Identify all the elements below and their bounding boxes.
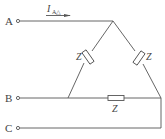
right-leg-top bbox=[113, 21, 135, 51]
terminal-c-label: C bbox=[5, 122, 12, 134]
terminal-c-node bbox=[16, 126, 19, 129]
terminal-b-node bbox=[16, 96, 19, 99]
current-subscript: A△ bbox=[52, 9, 61, 15]
impedance-left bbox=[82, 50, 94, 64]
current-arrow-head-icon bbox=[64, 14, 71, 17]
terminal-a-node bbox=[16, 19, 19, 22]
impedance-left-label: Z bbox=[76, 51, 82, 62]
left-leg-top bbox=[92, 21, 113, 51]
impedance-right-label: Z bbox=[146, 51, 152, 62]
terminal-a-label: A bbox=[5, 15, 13, 27]
impedance-right bbox=[133, 51, 145, 65]
right-leg-bottom bbox=[143, 64, 161, 98]
left-leg-bottom bbox=[68, 63, 84, 98]
impedance-bottom bbox=[108, 96, 124, 101]
terminal-b-label: B bbox=[5, 92, 12, 104]
impedance-bottom-label: Z bbox=[112, 103, 118, 114]
delta-circuit-diagram: A I A△ Z Z B Z C bbox=[0, 0, 165, 139]
current-label: I bbox=[46, 3, 51, 14]
